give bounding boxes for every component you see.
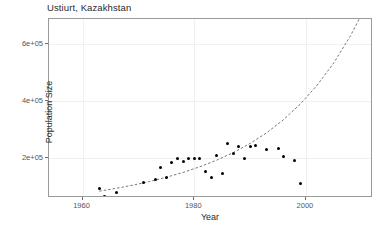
data-point bbox=[226, 142, 229, 145]
x-tick-mark bbox=[82, 197, 83, 200]
x-tick-label: 2000 bbox=[297, 201, 314, 210]
data-point bbox=[232, 152, 235, 155]
x-tick-mark bbox=[305, 197, 306, 200]
data-point bbox=[165, 176, 168, 179]
x-tick-label: 1980 bbox=[185, 201, 202, 210]
y-tick-label: 6e+05 bbox=[22, 39, 43, 48]
data-point bbox=[277, 147, 280, 150]
data-point bbox=[282, 155, 285, 158]
data-point bbox=[210, 176, 213, 179]
x-tick-label: 1960 bbox=[73, 201, 90, 210]
data-point bbox=[249, 145, 252, 148]
data-point bbox=[243, 157, 246, 160]
page-title: Ustiurt, Kazakhstan bbox=[47, 2, 131, 13]
data-point bbox=[103, 195, 106, 197]
x-tick-mark bbox=[193, 197, 194, 200]
x-axis-label: Year bbox=[48, 212, 372, 222]
chart-screenshot: Ustiurt, Kazakhstan 1960198020002e+054e+… bbox=[0, 0, 384, 230]
data-point bbox=[215, 154, 218, 157]
trend-curve bbox=[49, 19, 372, 197]
y-tick-label: 4e+05 bbox=[22, 95, 43, 104]
plot-panel bbox=[48, 18, 372, 197]
y-tick-label: 2e+05 bbox=[22, 152, 43, 161]
data-point bbox=[115, 191, 118, 194]
y-axis-label: Population Size bbox=[44, 22, 54, 202]
data-point bbox=[193, 157, 196, 160]
data-point bbox=[154, 178, 157, 181]
trend-curve-path bbox=[99, 18, 362, 191]
